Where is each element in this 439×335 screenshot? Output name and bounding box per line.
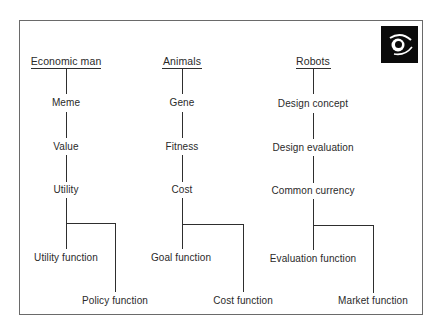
node-design-evaluation: Design evaluation <box>272 142 353 154</box>
branch-line <box>182 224 244 225</box>
node-cost-function: Cost function <box>213 295 273 307</box>
eye-icon <box>381 26 418 63</box>
node-evaluation-function: Evaluation function <box>270 253 356 265</box>
branch-line <box>243 224 244 292</box>
branch-line <box>313 225 374 226</box>
node-utility-function: Utility function <box>34 252 98 264</box>
header-animals: Animals <box>163 55 201 67</box>
node-design-concept: Design concept <box>278 98 348 110</box>
node-meme: Meme <box>52 97 80 109</box>
node-fitness: Fitness <box>166 141 199 153</box>
connector-line <box>313 156 314 183</box>
node-utility: Utility <box>53 184 78 196</box>
connector-line <box>66 112 67 138</box>
branch-line <box>373 225 374 293</box>
node-common-currency: Common currency <box>271 185 354 197</box>
branch-line <box>115 223 116 292</box>
node-goal-function: Goal function <box>151 252 211 264</box>
connector-line <box>66 68 67 94</box>
connector-line <box>66 155 67 182</box>
connector-line <box>182 155 183 182</box>
node-value: Value <box>53 141 78 153</box>
connector-line <box>313 113 314 139</box>
publisher-logo <box>381 26 418 63</box>
node-market-function: Market function <box>338 295 408 307</box>
connector-line <box>313 68 314 94</box>
node-policy-function: Policy function <box>82 295 148 307</box>
header-robots: Robots <box>296 55 330 67</box>
branch-line <box>66 223 116 224</box>
connector-line <box>182 68 183 94</box>
header-economic-man: Economic man <box>31 55 102 67</box>
connector-line <box>182 112 183 138</box>
node-cost: Cost <box>172 184 193 196</box>
node-gene: Gene <box>170 97 195 109</box>
